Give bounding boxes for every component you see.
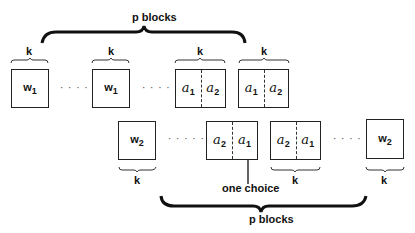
block-a2-a1-second: a2 a1 — [270, 121, 321, 160]
top-brace — [42, 26, 245, 43]
k-label-bottom-2: k — [292, 174, 298, 186]
k-label-top-2: k — [108, 45, 114, 57]
block-a1-a2-first: a1 a2 — [175, 69, 226, 108]
block-w1-first: w1 — [11, 69, 49, 108]
cell-left: a2 — [213, 132, 226, 149]
k-brace-top-1 — [11, 58, 48, 63]
cell-right: a1 — [301, 132, 314, 149]
block-w1-second: w1 — [92, 69, 130, 108]
block-a2-a1-first: a2 a1 — [206, 121, 258, 160]
k-label-bottom-3: k — [381, 174, 387, 186]
diagram-lines — [0, 0, 415, 233]
k-brace-bottom-3 — [366, 167, 404, 172]
block-a1-a2-second: a1 a2 — [238, 69, 289, 108]
k-label-top-4: k — [261, 45, 267, 57]
block-label: w2 — [130, 133, 144, 148]
k-label-top-1: k — [26, 45, 32, 57]
k-brace-top-3 — [175, 58, 225, 63]
k-brace-top-4 — [239, 58, 289, 63]
bottom-brace-label: p blocks — [249, 213, 294, 225]
cell-left: a1 — [245, 80, 258, 97]
cell-left: a2 — [277, 132, 290, 149]
k-brace-bottom-2 — [271, 167, 320, 172]
top-brace-label: p blocks — [132, 11, 177, 23]
block-label: w1 — [104, 81, 118, 96]
ellipsis-bottom-2: · · · · — [333, 133, 362, 144]
block-label: w1 — [23, 81, 37, 96]
ellipsis-top-1: · · · · — [60, 82, 89, 93]
k-label-bottom-1: k — [134, 174, 140, 186]
block-w2-first: w2 — [118, 121, 156, 160]
cell-right: a2 — [206, 80, 219, 97]
block-w2-second: w2 — [366, 119, 404, 159]
cell-right: a2 — [269, 80, 282, 97]
bottom-brace — [161, 196, 366, 212]
one-choice-annotation: one choice — [222, 182, 279, 194]
block-label: w2 — [378, 132, 392, 147]
ellipsis-bottom-1: · · · · · — [168, 133, 205, 144]
k-label-top-3: k — [197, 45, 203, 57]
k-brace-bottom-1 — [119, 167, 156, 172]
cell-right: a1 — [238, 132, 251, 149]
cell-left: a1 — [182, 80, 195, 97]
k-brace-top-2 — [92, 58, 129, 63]
ellipsis-top-2: · · · · — [142, 82, 171, 93]
